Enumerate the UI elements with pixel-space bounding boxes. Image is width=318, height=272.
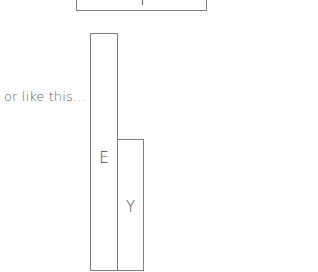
bar-e: E (90, 33, 118, 271)
top-box-text-fragment (142, 0, 143, 5)
top-partial-box (76, 0, 207, 11)
caption-text: or like this... (4, 89, 85, 104)
bar-y: Y (117, 139, 144, 271)
bar-y-label: Y (118, 198, 143, 216)
bar-e-label: E (91, 149, 117, 167)
